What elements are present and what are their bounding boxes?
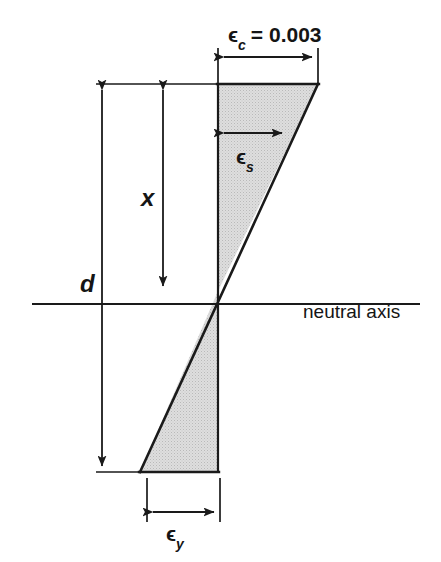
strain-diagram-figure: ϵc= 0.003 ϵs ϵy x d neutral axis (0, 0, 441, 562)
epsilon-symbol: ϵ (228, 23, 238, 46)
d-dimension-label: d (80, 272, 95, 296)
epsilon-c-value: = 0.003 (251, 23, 322, 46)
epsilon-s-symbol-group: ϵs (236, 146, 254, 170)
epsilon-y-symbol-group: ϵy (166, 523, 184, 547)
epsilon-s-subscript: s (246, 159, 254, 175)
epsilon-c-label: ϵc= 0.003 (228, 24, 322, 48)
strain-diagram-canvas (0, 0, 441, 562)
epsilon-symbol: ϵ (236, 145, 246, 168)
epsilon-y-subscript: y (176, 536, 184, 552)
neutral-axis-label: neutral axis (303, 302, 400, 321)
epsilon-y-label: ϵy (166, 523, 184, 547)
epsilon-symbol: ϵ (166, 522, 176, 545)
epsilon-c-subscript: c (238, 37, 246, 53)
epsilon-y-dimension (147, 478, 220, 522)
x-dimension-label: x (141, 186, 154, 210)
epsilon-c-symbol-group: ϵc (228, 24, 246, 48)
epsilon-c-dimension (218, 48, 318, 84)
epsilon-s-label: ϵs (236, 146, 254, 170)
